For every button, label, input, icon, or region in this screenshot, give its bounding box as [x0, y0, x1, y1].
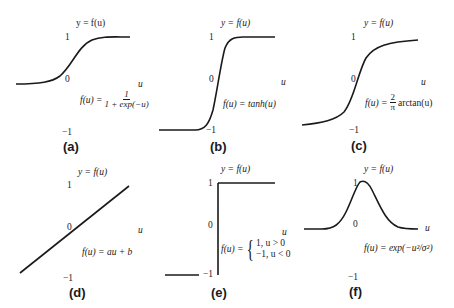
x-axis-label: u [138, 226, 143, 236]
y-axis-label: y = f(u) [364, 19, 393, 29]
formula-lhs: f(u) = [365, 98, 388, 108]
tick-minus-one: −1 [203, 270, 213, 280]
formula-step: f(u) = { 1, u > 0 −1, u < 0 [221, 236, 290, 262]
tick-zero: 0 [67, 223, 72, 233]
tick-zero: 0 [351, 75, 356, 85]
y-axis-label: y = f(u) [221, 165, 250, 175]
panel-tag-f: (f) [349, 285, 362, 298]
panel-linear: y = f(u) 1 0 u f(u) = au + b −1 (d) [0, 154, 151, 308]
tick-one: 1 [67, 181, 72, 191]
tick-minus-one: −1 [206, 126, 216, 136]
panel-tag-b: (b) [210, 140, 227, 153]
y-axis-label: y = f(u) [76, 19, 105, 29]
tick-one: 1 [351, 33, 356, 43]
formula-denominator: π [390, 103, 395, 113]
tick-one: 1 [209, 33, 214, 43]
formula-tanh: f(u) = tanh(u) [223, 100, 276, 110]
gaussian-curve [302, 154, 454, 308]
panel-step: y = f(u) 1 0 u f(u) = { 1, u > 0 −1, u <… [151, 154, 302, 308]
tick-minus-one: −1 [348, 273, 358, 283]
x-axis-label: u [425, 224, 430, 234]
tick-one: 1 [353, 179, 358, 189]
tick-minus-one: −1 [349, 126, 359, 136]
formula-denominator: 1 + exp(−u) [105, 100, 149, 110]
panel-tag-a: (a) [63, 140, 79, 153]
formula-rhs: arctan(u) [398, 98, 432, 108]
tick-zero: 0 [209, 75, 214, 85]
formula-case-positive: 1, u > 0 [256, 238, 290, 249]
formula-sigmoid: f(u) = 11 + exp(−u) [80, 90, 149, 110]
y-axis-label: y = f(u) [364, 165, 393, 175]
tick-minus-one: −1 [63, 274, 73, 284]
tick-minus-one: −1 [62, 128, 72, 138]
panel-gaussian: y = f(u) 1 0 u f(u) = exp(−u²/σ²) −1 (f) [302, 154, 453, 308]
panel-tanh: y = f(u) 1 0 u f(u) = tanh(u) −1 (b) [151, 0, 302, 154]
x-axis-label: u [281, 78, 286, 88]
tick-one: 1 [65, 33, 70, 43]
x-axis-label: u [138, 80, 143, 90]
panel-sigmoid: y = f(u) 1 0 u f(u) = 11 + exp(−u) −1 (a… [0, 0, 151, 154]
y-axis-label: y = f(u) [78, 168, 107, 178]
tick-zero: 0 [353, 220, 358, 230]
formula-case-negative: −1, u < 0 [256, 249, 290, 260]
panel-tag-d: (d) [69, 286, 86, 299]
y-axis-label: y = f(u) [221, 19, 250, 29]
brace-symbol: { [246, 236, 253, 262]
tick-zero: 0 [208, 221, 213, 231]
formula-lhs: f(u) = [80, 95, 103, 105]
tick-one: 1 [208, 179, 213, 189]
formula-lhs: f(u) = [221, 244, 244, 254]
formula-linear: f(u) = au + b [82, 248, 132, 258]
panel-tag-c: (c) [351, 139, 367, 152]
tick-zero: 0 [65, 75, 70, 85]
x-axis-label: u [421, 78, 426, 88]
panel-tag-e: (e) [211, 286, 227, 299]
panel-arctan: y = f(u) 1 0 u f(u) = 2π arctan(u) −1 (c… [302, 0, 453, 154]
formula-arctan: f(u) = 2π arctan(u) [365, 93, 432, 113]
formula-gaussian: f(u) = exp(−u²/σ²) [364, 244, 433, 254]
